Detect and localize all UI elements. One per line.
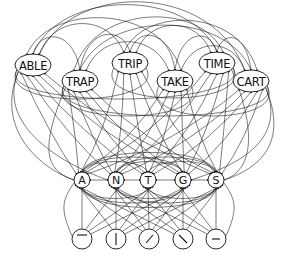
letter-label: N [112,174,120,187]
connection-edge [146,188,180,230]
letter-node-n: N [108,172,124,188]
connection-edge [110,185,208,234]
letter-node-t: T [140,172,156,188]
connection-edge [39,75,177,174]
letter-label: G [179,174,188,187]
letter-label: A [78,174,86,187]
connection-edge [181,91,184,172]
connection-edge [188,91,257,174]
word-label: ABLE [19,59,47,73]
connection-edge [224,183,234,236]
connection-edge [85,188,118,230]
feature-node-horizontal-top-icon [72,229,92,249]
word-label: TRAP [65,75,95,89]
letter-node-g: G [175,172,191,188]
connection-edge [82,157,183,172]
letter-label: S [213,174,220,187]
letter-node-s: S [208,172,224,188]
word-label: TIME [203,57,230,71]
connection-edge [68,89,78,172]
letter-label: T [144,174,152,187]
word-node-trip: TRIP [112,52,148,74]
network-diagram: ABLE TRAP TRIP TAKE TIME CART A [0,0,287,262]
feature-node-circle [72,229,92,249]
connection-edge [125,185,223,234]
word-label: CART [237,75,267,89]
letter-node-a: A [74,172,90,188]
word-label: TRIP [117,57,143,71]
word-node-able: ABLE [15,54,51,76]
connection-edge [186,188,218,230]
feature-node-diagonal-left-icon [173,229,193,249]
word-node-take: TAKE [157,70,193,92]
feature-node-vertical-bar-icon [106,229,126,249]
connection-edge [191,87,271,180]
connection-edge [91,185,190,234]
connection-edge [155,187,220,232]
feature-node-diagonal-right-icon [139,229,159,249]
word-node-time: TIME [199,52,235,74]
word-label: TAKE [160,75,189,89]
connection-edges [12,2,274,236]
connection-edge [111,187,176,232]
word-node-trap: TRAP [62,70,98,92]
connection-edge [76,185,175,234]
connection-edge [148,188,149,229]
word-node-cart: CART [233,70,269,92]
feature-node-horizontal-middle-icon [206,229,226,249]
connection-edge [80,188,113,230]
connection-edge [33,5,217,54]
connection-edge [221,89,262,174]
connection-edge [64,183,74,236]
